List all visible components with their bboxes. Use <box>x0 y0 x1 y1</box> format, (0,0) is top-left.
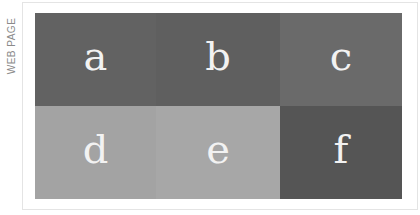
cell-f: f <box>280 106 402 199</box>
web-page-label: WEB PAGE <box>6 18 17 75</box>
cell-d: d <box>35 106 156 199</box>
cell-b-label: b <box>205 36 231 76</box>
cell-f-label: f <box>334 129 349 169</box>
cell-e-label: e <box>206 129 230 169</box>
cell-a-label: a <box>84 36 108 76</box>
side-label: WEB PAGE <box>0 0 22 215</box>
cell-c: c <box>280 13 402 106</box>
cell-c-label: c <box>330 36 352 76</box>
cell-b: b <box>156 13 280 106</box>
cell-d-label: d <box>83 129 109 169</box>
cell-e: e <box>156 106 280 199</box>
cell-a: a <box>35 13 156 106</box>
layout-grid: a b c d e f <box>35 13 402 199</box>
